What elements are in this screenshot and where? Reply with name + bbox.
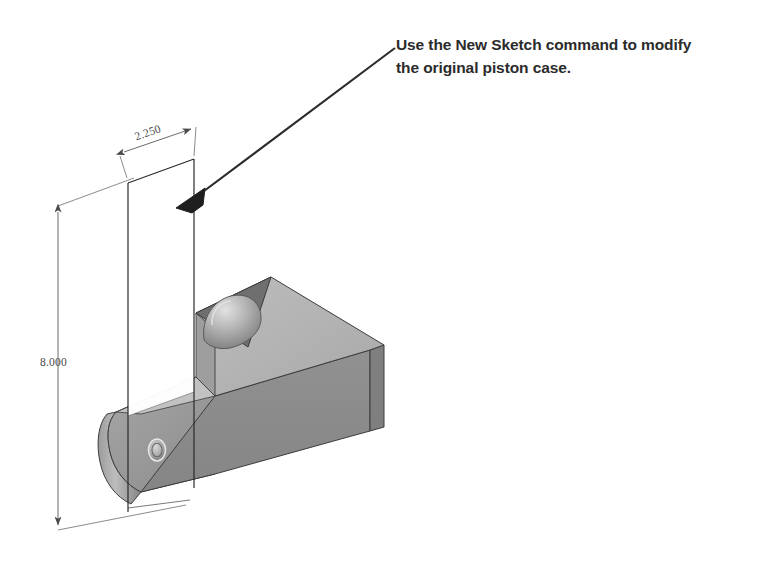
dimension-label-vertical[interactable]: 8.000 [40,356,67,368]
ext-line-right-2250 [194,127,196,156]
ext-line-top [58,178,134,206]
annotation-callout: Use the New Sketch command to modify the… [396,33,746,79]
sketch-plane-fill [128,159,194,416]
ext-line-bottom [58,505,186,530]
annotation-line-1: Use the New Sketch command to modify [396,33,746,56]
ext-line-left-2250 [120,156,127,178]
cad-illustration [0,0,757,570]
annotation-line-2: the original piston case. [396,56,746,79]
annotation-leader [176,48,395,213]
drawing-canvas: Use the New Sketch command to modify the… [0,0,757,570]
thru-hole [149,439,166,461]
bottom-tangent-line [128,500,190,508]
block-right-face [370,345,384,431]
leader-line [196,48,395,197]
